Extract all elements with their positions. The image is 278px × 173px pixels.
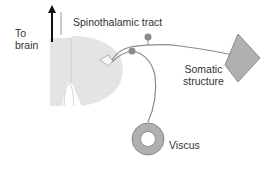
visceral-ganglion bbox=[129, 48, 136, 55]
spinothalamic-tract-label: Spinothalamic tract bbox=[73, 16, 162, 28]
to-brain-label-line2: brain bbox=[15, 39, 38, 51]
arrow-head-icon bbox=[48, 5, 56, 13]
somatic-structure-shape bbox=[225, 34, 260, 82]
to-brain-label-line1: To bbox=[15, 27, 38, 39]
somatic-ganglion bbox=[145, 34, 152, 41]
to-brain-label: To brain bbox=[15, 27, 38, 51]
viscus-label: Viscus bbox=[169, 139, 200, 151]
viscus-lumen bbox=[141, 132, 156, 147]
somatic-label-line2: structure bbox=[183, 75, 224, 87]
spinal-cord-section bbox=[50, 36, 123, 106]
somatic-structure-label: Somatic structure bbox=[183, 63, 224, 87]
somatic-label-line1: Somatic bbox=[183, 63, 224, 75]
